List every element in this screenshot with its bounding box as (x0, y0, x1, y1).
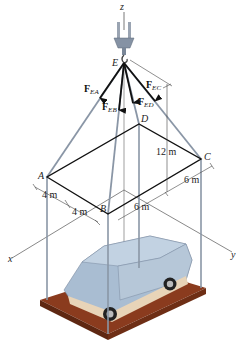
diagram-svg: z x y E A B C D FEA FEB FED FEC 12 m 4 m… (0, 0, 247, 352)
y-axis-label: y (230, 249, 236, 260)
point-e-label: E (111, 57, 118, 68)
x-axis-label: x (7, 253, 13, 264)
force-ec-label: FEC (146, 79, 161, 92)
point-a-label: A (37, 170, 45, 181)
force-eb-label: FEB (102, 101, 117, 114)
point-c-label: C (204, 151, 211, 162)
bc-dim-label-1: 6 m (134, 201, 150, 212)
ab-dim-label-2: 4 m (72, 206, 88, 217)
diagram-canvas: z x y E A B C D FEA FEB FED FEC 12 m 4 m… (0, 0, 247, 352)
point-b-label: B (100, 203, 106, 214)
bc-dim-label-2: 6 m (184, 174, 200, 185)
point-d-label: D (140, 113, 149, 124)
force-ea-label: FEA (84, 83, 99, 96)
ab-dim-label-1: 4 m (42, 189, 58, 200)
bc-dimension (118, 163, 214, 220)
height-dim-label: 12 m (156, 146, 177, 157)
z-axis-label: z (119, 1, 124, 12)
